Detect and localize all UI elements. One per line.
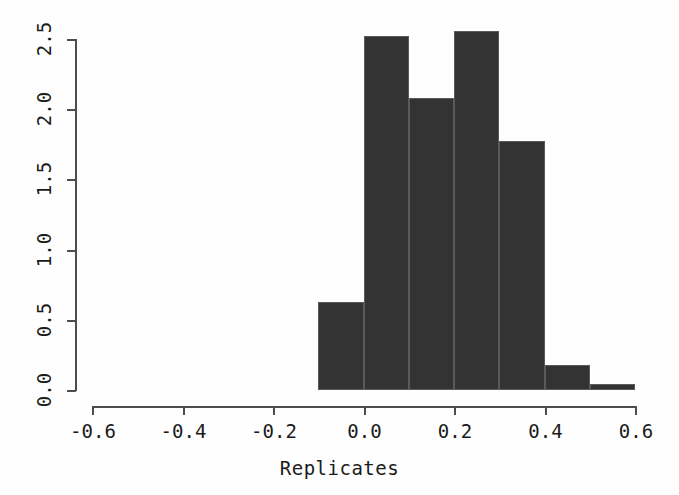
y-axis-tick-label: 0.0 [33,362,55,418]
y-axis-tick-label: 0.5 [33,292,55,348]
histogram-plot: 0.00.51.01.52.02.5-0.6-0.4-0.20.00.20.40… [0,0,679,495]
x-axis-tick [454,406,456,415]
x-axis-tick-label: 0.0 [325,420,405,442]
x-axis-tick [92,406,94,415]
x-axis-tick-label: 0.6 [596,420,676,442]
histogram-bar [364,36,409,390]
histogram-bar [454,31,499,390]
histogram-bar [409,98,454,390]
x-axis-tick [273,406,275,415]
y-axis-tick-label: 2.0 [33,81,55,137]
x-axis-tick [545,406,547,415]
y-axis-tick [67,179,76,181]
y-axis-tick-label: 2.5 [33,11,55,67]
y-axis-tick [67,390,76,392]
y-axis-tick [67,109,76,111]
x-axis-tick-label: -0.4 [144,420,224,442]
histogram-bar [318,302,363,390]
y-axis-tick [67,39,76,41]
x-axis-tick [364,406,366,415]
x-axis-tick-label: 0.2 [415,420,495,442]
y-axis-tick [67,320,76,322]
x-axis-tick-label: -0.6 [53,420,133,442]
histogram-bar [545,365,590,390]
x-axis-tick [183,406,185,415]
y-axis-tick [67,250,76,252]
x-axis-tick-label: -0.2 [234,420,314,442]
y-axis-line [75,39,77,391]
histogram-bar [590,384,635,390]
x-axis-tick [635,406,637,415]
histogram-bar [499,141,544,390]
y-axis-tick-label: 1.5 [33,151,55,207]
y-axis-tick-label: 1.0 [33,222,55,278]
x-axis-title: Replicates [0,457,679,479]
x-axis-tick-label: 0.4 [506,420,586,442]
